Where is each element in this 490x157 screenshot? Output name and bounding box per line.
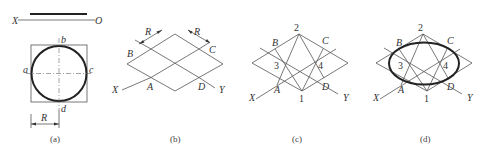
center-1: 1 — [299, 93, 304, 104]
diagram-canvas: X O b a c d R (a) B C A D X Y — [0, 0, 490, 157]
line-2-A — [277, 34, 299, 85]
point-A: A — [146, 81, 154, 92]
center-4: 4 — [443, 60, 448, 71]
point-b: b — [61, 34, 66, 45]
point-B: B — [272, 37, 278, 48]
center-1: 1 — [424, 93, 429, 104]
label-o: O — [95, 15, 102, 26]
arrow-right-icon — [54, 123, 59, 126]
center-2: 2 — [418, 22, 423, 33]
caption-b: (b) — [170, 134, 181, 144]
point-D: D — [321, 81, 330, 92]
axis-label-x: X — [111, 84, 119, 95]
point-A: A — [397, 84, 405, 95]
center-3: 3 — [398, 60, 403, 71]
point-C: C — [447, 35, 454, 46]
center-4: 4 — [318, 60, 323, 71]
dim-label-left: R — [144, 26, 151, 37]
outer-rhombus — [252, 34, 348, 91]
point-d: d — [61, 103, 67, 114]
point-A: A — [273, 84, 281, 95]
arrow-right-b-icon — [206, 39, 211, 43]
dim-label-right: R — [193, 26, 200, 37]
point-B: B — [127, 48, 133, 59]
point-C: C — [322, 35, 329, 46]
point-c: c — [89, 64, 94, 75]
axis-label-y: Y — [219, 84, 226, 95]
axis-label-y: Y — [343, 92, 350, 103]
center-3: 3 — [274, 60, 279, 71]
axis-label-x: X — [248, 92, 256, 103]
caption-c: (c) — [292, 134, 302, 144]
axis-label-y: Y — [467, 92, 474, 103]
point-D: D — [446, 81, 455, 92]
panel-b: B C A D X Y R R (b) — [111, 26, 226, 144]
point-D: D — [197, 81, 206, 92]
arrow-left-icon — [31, 123, 36, 126]
panel-a: X O b a c d R (a) — [11, 14, 102, 144]
panel-c: 2 1 3 4 B C A D X Y (c) — [248, 22, 350, 144]
dim-label-r: R — [40, 112, 47, 123]
point-B: B — [396, 37, 402, 48]
caption-a: (a) — [50, 134, 60, 144]
point-a: a — [23, 64, 28, 75]
label-x: X — [11, 15, 19, 26]
center-2: 2 — [294, 22, 299, 33]
caption-d: (d) — [420, 134, 431, 144]
point-C: C — [209, 44, 216, 55]
arrow-right-a-icon — [188, 30, 193, 34]
panel-d: 2 1 3 4 B C A D X Y (d) — [372, 22, 474, 144]
line-2-D — [423, 34, 448, 78]
arrow-left-b-icon — [157, 30, 163, 34]
axis-label-x: X — [372, 92, 380, 103]
